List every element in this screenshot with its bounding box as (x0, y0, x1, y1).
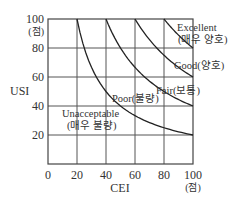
label-poor: Poor(불량) (112, 93, 159, 105)
y-tick-80: 80 (32, 41, 44, 55)
label-unacceptable-ko: (매우 불량) (67, 120, 117, 132)
y-tick-100: 100 (26, 12, 44, 26)
x-tick-80: 80 (158, 168, 170, 182)
y-unit-label: (점) (28, 26, 44, 38)
x-unit-label: (점) (185, 182, 201, 194)
usi-cei-chart: 100 (점) 80 60 40 20 USI 0 20 40 60 80 10… (0, 0, 229, 201)
y-tick-20: 20 (32, 128, 44, 142)
x-tick-0: 0 (45, 168, 51, 182)
y-tick-40: 40 (32, 99, 44, 113)
x-tick-40: 40 (100, 168, 112, 182)
y-tick-labels: 100 (점) 80 60 40 20 (26, 12, 44, 142)
y-tick-60: 60 (32, 70, 44, 84)
x-tick-100: 100 (184, 168, 202, 182)
label-excellent: Excellent (177, 22, 217, 33)
x-tick-60: 60 (129, 168, 141, 182)
label-fair: Fair(보통) (156, 85, 200, 97)
label-unacceptable: Unacceptable (62, 108, 119, 119)
label-good: Good(양호) (174, 60, 225, 72)
y-axis-label: USI (10, 84, 29, 98)
x-tick-20: 20 (71, 168, 83, 182)
x-axis-label: CEI (110, 181, 129, 195)
label-excellent-ko: (매우 양호) (178, 34, 228, 46)
